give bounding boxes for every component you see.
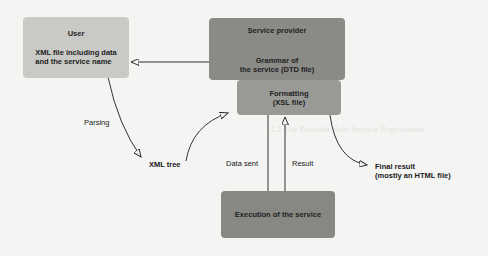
edge-label-parsing: Parsing [84, 118, 109, 127]
service-provider-line2: the service (DTD file) [240, 65, 315, 74]
final-result-node: Final result (mostly an HTML file) [375, 162, 451, 180]
execution-title: Execution of the service [235, 210, 321, 219]
service-provider-node: Service provider Grammar of the service … [209, 18, 345, 80]
arrow-parsing [108, 77, 141, 157]
formatting-node: Formatting (XSL file) [237, 80, 341, 115]
arrow-xmltree-to-formatting [186, 113, 228, 161]
arrow-to-final-result [330, 115, 367, 165]
formatting-line1: Formatting [269, 89, 308, 98]
user-node: User XML file including data and the ser… [23, 17, 129, 78]
xml-tree-node: XML tree [149, 160, 181, 169]
user-node-line1: XML file including data [35, 48, 117, 57]
final-result-line1: Final result [375, 162, 451, 171]
final-result-line2: (mostly an HTML file) [375, 171, 451, 180]
execution-node: Execution of the service [221, 191, 335, 238]
service-provider-title: Service provider [248, 26, 307, 35]
formatting-line2: (XSL file) [273, 98, 305, 107]
edge-label-result: Result [292, 159, 313, 168]
user-node-title: User [68, 29, 85, 38]
service-provider-line1: Grammar of [240, 56, 315, 65]
user-node-line2: and the service name [35, 57, 117, 66]
edge-label-data-sent: Data sent [226, 159, 258, 168]
